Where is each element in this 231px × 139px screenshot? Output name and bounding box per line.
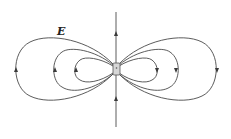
arrow-down-icon [174, 68, 178, 73]
dipole-field-diagram: E [0, 0, 231, 139]
field-label: E [56, 25, 66, 38]
dipole-source [113, 63, 120, 75]
arrow-down-icon [215, 68, 219, 73]
field-lines-svg: E [0, 0, 231, 139]
arrow-up-icon [14, 67, 18, 72]
arrow-up-icon [114, 31, 118, 36]
left-outer-field-line [16, 38, 113, 100]
arrow-up-icon [114, 96, 118, 101]
dipole-center-dot [116, 67, 118, 69]
right-outer-field-line [119, 38, 216, 100]
arrow-down-icon [155, 68, 159, 73]
